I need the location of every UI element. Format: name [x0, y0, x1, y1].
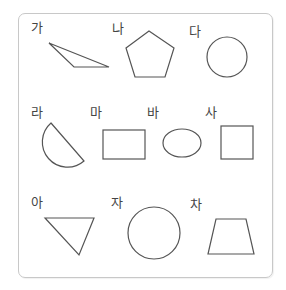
- shape-ma-rectangle: [103, 130, 145, 159]
- shape-a-triangle: [45, 218, 94, 255]
- shape-ga-obtuse-triangle: [49, 43, 109, 67]
- shape-da-circle: [207, 37, 247, 77]
- shape-cha-trapezoid: [208, 219, 254, 254]
- shape-sa-square: [221, 126, 253, 159]
- shape-ja-circle: [128, 207, 180, 259]
- shapes-canvas: [0, 0, 286, 290]
- shape-na-pentagon: [126, 31, 174, 77]
- shape-ra-semicircle: [42, 123, 84, 167]
- shape-ba-ellipse: [163, 129, 201, 157]
